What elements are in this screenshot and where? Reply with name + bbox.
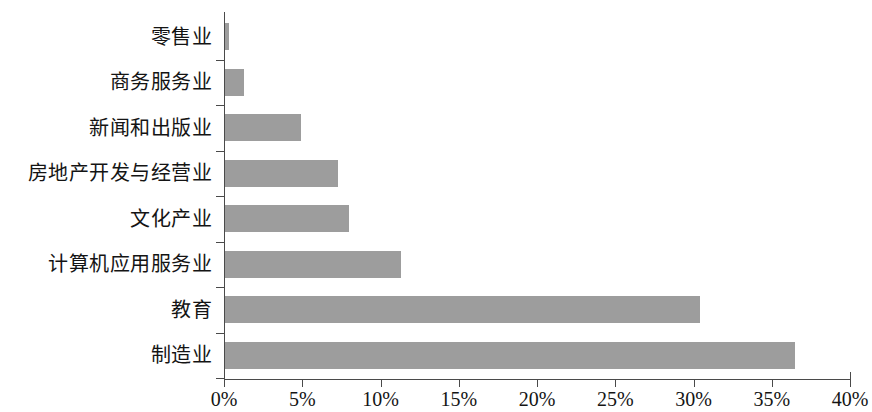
category-label-8: 制造业: [151, 344, 213, 366]
x-axis-tick-label-0: 0%: [211, 388, 238, 410]
category-label-7: 教育: [171, 299, 212, 321]
x-axis-tick-label-7: 35%: [753, 388, 790, 410]
bar-row: [224, 296, 850, 323]
x-axis-tick-4: [537, 379, 538, 387]
x-axis-tick-label-8: 40%: [832, 388, 869, 410]
bar-row: [224, 69, 850, 96]
category-axis-labels: 零售业商务服务业新闻和出版业房地产开发与经营业文化产业计算机应用服务业教育制造业: [0, 14, 218, 378]
category-label-3: 新闻和出版业: [89, 117, 212, 139]
bar-7: [224, 296, 700, 323]
x-axis-tick-1: [302, 379, 303, 387]
bar-row: [224, 205, 850, 232]
bar-6: [224, 251, 401, 278]
bar-5: [224, 205, 349, 232]
x-axis-tick-label-5: 25%: [597, 388, 634, 410]
bar-2: [224, 69, 244, 96]
bar-row: [224, 160, 850, 187]
x-axis-tick-5: [615, 379, 616, 387]
bar-row: [224, 342, 850, 369]
plot-area: [224, 14, 850, 378]
bar-4: [224, 160, 338, 187]
y-axis-tick-5: [216, 242, 225, 243]
category-label-1: 零售业: [151, 26, 213, 48]
category-label-2: 商务服务业: [110, 71, 213, 93]
bar-8: [224, 342, 795, 369]
x-axis-tick-label-2: 10%: [362, 388, 399, 410]
category-label-4: 房地产开发与经营业: [28, 162, 213, 184]
x-axis-tick-8: [850, 379, 851, 387]
x-axis-tick-2: [381, 379, 382, 387]
y-axis-tick-7: [216, 333, 225, 334]
bar-row: [224, 23, 850, 50]
x-axis-tick-0: [224, 371, 225, 387]
x-axis-tick-7: [772, 379, 773, 387]
y-axis-tick-2: [216, 105, 225, 106]
x-axis-tick-label-3: 15%: [440, 388, 477, 410]
bar-row: [224, 114, 850, 141]
x-axis-tick-6: [694, 379, 695, 387]
x-axis-tick-3: [459, 379, 460, 387]
y-axis-tick-4: [216, 196, 225, 197]
x-axis-tick-label-1: 5%: [289, 388, 316, 410]
y-axis-tick-3: [216, 151, 225, 152]
category-label-6: 计算机应用服务业: [48, 253, 212, 275]
x-axis-tick-label-6: 30%: [675, 388, 712, 410]
bar-3: [224, 114, 301, 141]
category-label-5: 文化产业: [130, 208, 212, 230]
bar-chart: 零售业商务服务业新闻和出版业房地产开发与经营业文化产业计算机应用服务业教育制造业…: [0, 0, 872, 412]
bar-row: [224, 251, 850, 278]
x-axis-tick-label-4: 20%: [519, 388, 556, 410]
y-axis-tick-1: [216, 60, 225, 61]
y-axis-tick-6: [216, 287, 225, 288]
